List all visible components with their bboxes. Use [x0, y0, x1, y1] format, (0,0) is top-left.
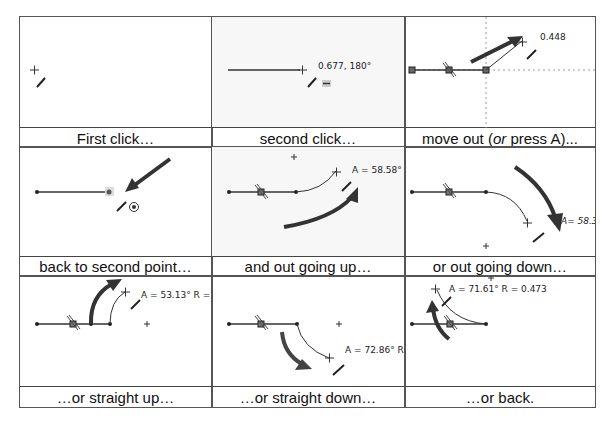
panel-image: 0.677, 180°	[212, 17, 404, 128]
angle-radius-readout: A = 71.61° R = 0.473	[449, 284, 547, 294]
angle-readout: A= 58.3'	[560, 216, 595, 226]
tangent-arc	[437, 290, 486, 324]
panel-image: A = 58.58°	[212, 147, 404, 257]
crosshair-cursor-icon	[121, 288, 130, 297]
angle-radius-readout: A = 53.13° R =	[141, 290, 210, 300]
panel-image	[20, 17, 211, 128]
tutorial-grid: First click… 0.677, 180° second click…	[19, 16, 596, 408]
crosshair-cursor-icon	[325, 354, 334, 363]
tangent-arc	[110, 292, 125, 324]
panel-out-going-up: A = 58.58° and out going up…	[212, 147, 404, 275]
panel-caption: second click…	[212, 129, 404, 146]
line-tool-icon	[527, 50, 536, 59]
direction-arrow-icon	[515, 167, 563, 232]
panel-image: A = 72.86° R	[212, 276, 404, 387]
panel-straight-down: A = 72.86° R …or straight down…	[212, 276, 404, 407]
endpoint-snap-icon	[130, 203, 139, 212]
panel-first-click: First click…	[20, 17, 211, 146]
caption-text: move out (	[422, 130, 493, 146]
angle-radius-readout: A = 72.86° R	[345, 345, 404, 355]
panel-caption: …or straight up…	[20, 388, 211, 407]
crosshair-cursor-icon	[30, 66, 39, 75]
line-tool-icon	[533, 233, 544, 242]
panel-caption: move out (or press A)...	[405, 129, 595, 146]
length-angle-readout: 0.677, 180°	[318, 61, 371, 71]
panel-caption: and out going up…	[212, 257, 404, 275]
panel-image: A= 58.3'	[405, 147, 595, 257]
direction-arrow-icon	[426, 300, 449, 339]
panel-image: A = 53.13° R =	[20, 276, 211, 387]
tangent-arc	[297, 324, 329, 358]
panel-caption: …or straight down…	[212, 388, 404, 407]
direction-arrow-icon	[471, 36, 523, 62]
panel-back-to-second-point: back to second point…	[20, 147, 211, 275]
panel-back: A = 71.61° R = 0.473 …or back.	[405, 276, 595, 407]
panel-caption: …or back.	[405, 388, 595, 407]
panel-image: 0.448	[405, 17, 595, 128]
direction-arrow-icon	[125, 159, 170, 192]
angle-readout: A = 58.58°	[352, 165, 402, 175]
crosshair-cursor-icon	[523, 219, 532, 228]
line-tool-icon	[131, 300, 140, 309]
length-readout: 0.448	[540, 32, 566, 42]
line-tool-icon	[342, 182, 351, 191]
direction-arrow-icon	[282, 332, 312, 370]
panel-caption: First click…	[20, 129, 211, 146]
panel-move-out: 0.448 move out (or press A)...	[405, 17, 595, 146]
panel-caption: or out going down…	[405, 257, 595, 275]
panel-straight-up: A = 53.13° R = …or straight up…	[20, 276, 211, 407]
panel-second-click: 0.677, 180° second click…	[212, 17, 404, 146]
line-tool-icon	[333, 365, 344, 375]
panel-caption: back to second point…	[20, 257, 211, 275]
line-tool-icon	[308, 78, 316, 87]
tangent-arc	[486, 192, 527, 221]
caption-text: press A)...	[506, 130, 578, 146]
direction-arrow-icon	[91, 279, 122, 324]
panel-image	[20, 147, 211, 257]
crosshair-cursor-icon	[298, 66, 307, 75]
panel-out-going-down: A= 58.3' or out going down…	[405, 147, 595, 275]
panel-image: A = 71.61° R = 0.473	[405, 276, 595, 387]
tangent-arc	[296, 171, 336, 192]
line-tool-icon	[37, 78, 45, 87]
caption-emphasis: or	[493, 130, 506, 146]
crosshair-cursor-icon	[431, 285, 440, 294]
line-tool-icon	[117, 202, 126, 211]
